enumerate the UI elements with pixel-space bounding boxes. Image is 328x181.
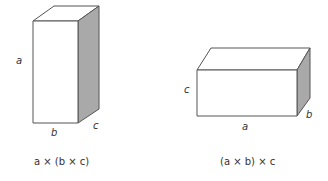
right-height-label: c xyxy=(184,85,190,95)
left-depth-label: c xyxy=(93,121,99,131)
boxes-drawing xyxy=(0,0,328,181)
left-box xyxy=(33,6,99,123)
right-box xyxy=(197,48,310,116)
right-box-front-face xyxy=(197,70,297,116)
right-box-top-face xyxy=(197,48,310,70)
left-width-label: b xyxy=(51,128,57,138)
left-box-side-face xyxy=(78,6,99,123)
left-caption: a × (b × c) xyxy=(34,157,89,167)
right-width-label: a xyxy=(242,122,248,132)
right-depth-label: b xyxy=(306,110,312,120)
left-height-label: a xyxy=(16,56,22,66)
right-caption: (a × b) × c xyxy=(220,157,275,167)
diagram: a b c a × (b × c) c a b (a × b) × c xyxy=(0,0,328,181)
left-box-front-face xyxy=(33,21,78,123)
